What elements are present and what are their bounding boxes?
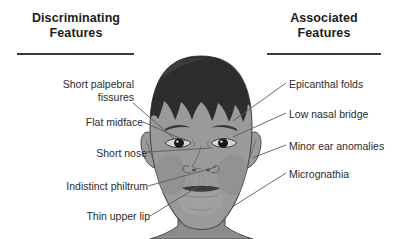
- facial-features-diagram: Discriminating Features Associated Featu…: [0, 0, 402, 239]
- label-indistinct-philtrum: Indistinct philtrum: [18, 180, 148, 193]
- label-low-nasal-bridge: Low nasal bridge: [289, 108, 401, 121]
- rule-left: [17, 53, 134, 55]
- label-short-nose: Short nose: [27, 147, 147, 160]
- eye-left: [165, 138, 191, 147]
- eye-right: [211, 138, 237, 147]
- label-minor-ear-anomalies: Minor ear anomalies: [289, 140, 401, 153]
- label-micrognathia: Micrognathia: [289, 168, 401, 181]
- label-epicanthal-folds: Epicanthal folds: [289, 78, 401, 91]
- rule-right: [267, 53, 381, 55]
- heading-discriminating-features: Discriminating Features: [12, 11, 140, 41]
- label-short-palpebral-fissures: Short palpebral fissures: [14, 78, 134, 104]
- heading-associated-features: Associated Features: [262, 11, 386, 41]
- label-flat-midface: Flat midface: [23, 116, 143, 129]
- label-thin-upper-lip: Thin upper lip: [20, 210, 150, 223]
